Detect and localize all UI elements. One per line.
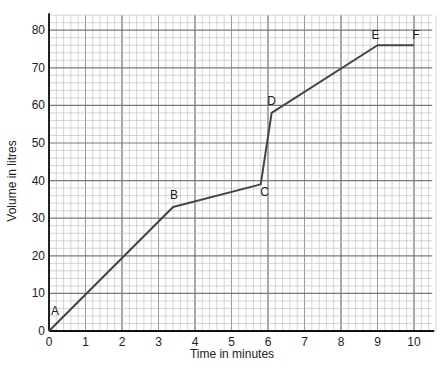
y-tick-label: 80: [32, 23, 46, 37]
y-tick-label: 10: [32, 286, 46, 300]
point-label-b: B: [170, 188, 178, 202]
x-tick-label: 3: [155, 335, 162, 349]
point-label-f: F: [412, 28, 419, 42]
y-tick-label: 40: [32, 174, 46, 188]
point-label-d: D: [267, 94, 276, 108]
point-label-e: E: [371, 28, 379, 42]
axes: [49, 13, 434, 331]
point-label-a: A: [51, 304, 59, 318]
y-axis-label: Volume in litres: [5, 140, 19, 221]
y-tick-label: 60: [32, 98, 46, 112]
x-tick-label: 7: [301, 335, 308, 349]
y-tick-label: 50: [32, 136, 46, 150]
y-tick-label: 20: [32, 249, 46, 263]
grid: [49, 15, 436, 331]
point-label-c: C: [260, 185, 269, 199]
x-tick-label: 1: [82, 335, 89, 349]
y-tick-label: 30: [32, 211, 46, 225]
x-tick-label: 2: [119, 335, 126, 349]
x-tick-label: 10: [407, 335, 421, 349]
y-tick-label: 70: [32, 61, 46, 75]
y-tick-label: 0: [38, 324, 45, 338]
tick-labels: 01234567891001020304050607080: [32, 23, 421, 349]
x-axis-label: Time in minutes: [190, 347, 274, 361]
x-tick-label: 0: [46, 335, 53, 349]
x-tick-label: 9: [374, 335, 381, 349]
x-tick-label: 8: [338, 335, 345, 349]
volume-time-chart: 01234567891001020304050607080 ABCDEF Tim…: [0, 0, 448, 374]
